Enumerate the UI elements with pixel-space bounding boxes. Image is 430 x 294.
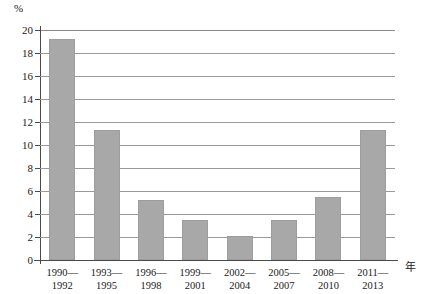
y-tick-mark: [35, 145, 40, 146]
y-tick-mark: [35, 53, 40, 54]
y-tick-mark: [35, 30, 40, 31]
y-tick-label: 12: [22, 117, 33, 128]
x-axis-label: 2002—2004: [218, 266, 262, 292]
y-tick-mark: [35, 122, 40, 123]
x-axis-label-line: 2004: [218, 279, 262, 292]
x-axis-label-line: 2002—: [218, 266, 262, 279]
x-axis-label: 1990—1992: [40, 266, 84, 292]
y-tick-label: 8: [28, 163, 34, 174]
y-tick-label: 18: [22, 48, 33, 59]
y-tick-mark: [35, 191, 40, 192]
bar-chart: % 20181614121086420 1990—19921993—199519…: [0, 0, 430, 294]
y-tick-label: 0: [28, 255, 34, 266]
y-tick-label: 2: [28, 232, 34, 243]
bar: [315, 197, 341, 260]
bar: [360, 130, 386, 260]
x-axis-label-line: 1995: [85, 279, 129, 292]
x-axis-label-line: 2011—: [351, 266, 395, 279]
x-axis-label: 1996—1998: [129, 266, 173, 292]
y-tick-mark: [35, 168, 40, 169]
y-tick-mark: [35, 99, 40, 100]
y-tick-mark: [35, 214, 40, 215]
y-tick-label: 10: [22, 140, 33, 151]
y-tick-label: 6: [28, 186, 34, 197]
plot-top-border: [40, 30, 395, 31]
x-axis-label-line: 2005—: [262, 266, 306, 279]
x-axis-label-line: 1992: [40, 279, 84, 292]
x-axis-line: [34, 260, 398, 261]
gridline: [40, 99, 395, 100]
x-axis-label-line: 2013: [351, 279, 395, 292]
x-axis-label-line: 1990—: [40, 266, 84, 279]
x-axis-label-line: 2010: [306, 279, 350, 292]
x-axis-label-line: 2001: [173, 279, 217, 292]
gridline: [40, 53, 395, 54]
x-axis-label: 1993—1995: [85, 266, 129, 292]
bar: [271, 220, 297, 260]
x-axis-label-line: 2008—: [306, 266, 350, 279]
y-tick-label: 4: [28, 209, 34, 220]
bar: [94, 130, 120, 260]
x-axis-label: 1999—2001: [173, 266, 217, 292]
y-tick-mark: [35, 260, 40, 261]
x-axis-label: 2011—2013: [351, 266, 395, 292]
x-axis-label-line: 1993—: [85, 266, 129, 279]
bar: [49, 39, 75, 260]
gridline: [40, 76, 395, 77]
y-axis-unit-label: %: [14, 2, 23, 14]
y-tick-label: 20: [22, 25, 33, 36]
y-tick-mark: [35, 76, 40, 77]
gridline: [40, 122, 395, 123]
x-axis-label: 2005—2007: [262, 266, 306, 292]
y-tick-label: 16: [22, 71, 33, 82]
bar: [227, 236, 253, 260]
x-axis-label-line: 1999—: [173, 266, 217, 279]
x-axis-label-line: 1996—: [129, 266, 173, 279]
y-tick-mark: [35, 237, 40, 238]
x-axis-label-line: 2007: [262, 279, 306, 292]
x-axis-title: 年: [405, 262, 416, 274]
plot-area: 20181614121086420 1990—19921993—19951996…: [40, 30, 395, 260]
x-axis-label-line: 1998: [129, 279, 173, 292]
x-axis-label: 2008—2010: [306, 266, 350, 292]
bar: [138, 200, 164, 260]
bar: [182, 220, 208, 260]
y-tick-label: 14: [22, 94, 33, 105]
